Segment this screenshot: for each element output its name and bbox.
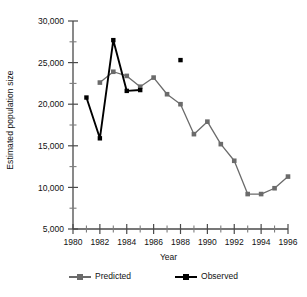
legend-label-observed: Observed bbox=[201, 272, 238, 281]
y-tick-label: 10,000 bbox=[38, 183, 64, 193]
x-tick-label: 1984 bbox=[117, 237, 136, 247]
chart-figure: Estimated population size 5,00010,00015,… bbox=[0, 0, 307, 297]
data-point-predicted bbox=[205, 119, 210, 124]
legend-item-observed: Observed bbox=[175, 272, 238, 281]
x-tick-label: 1990 bbox=[198, 237, 217, 247]
data-point-predicted bbox=[98, 80, 103, 85]
data-point-predicted bbox=[286, 174, 291, 179]
legend-swatch-observed bbox=[175, 272, 197, 281]
y-tick-label: 20,000 bbox=[38, 99, 64, 109]
legend-swatch-predicted bbox=[69, 272, 91, 281]
x-tick-label: 1980 bbox=[64, 237, 83, 247]
x-axis-label: Year bbox=[0, 252, 307, 262]
data-point-predicted bbox=[259, 192, 264, 197]
data-point-observed bbox=[98, 136, 102, 140]
series-line-observed bbox=[86, 40, 140, 138]
data-point-predicted bbox=[192, 132, 197, 137]
y-tick-label: 5,000 bbox=[43, 224, 65, 234]
data-point-observed bbox=[138, 88, 142, 92]
data-point-predicted bbox=[245, 192, 250, 197]
data-point-observed bbox=[84, 95, 88, 99]
x-tick-label: 1996 bbox=[279, 237, 298, 247]
data-point-predicted bbox=[124, 74, 129, 79]
x-tick-label: 1994 bbox=[252, 237, 271, 247]
data-point-predicted bbox=[111, 69, 116, 74]
legend-item-predicted: Predicted bbox=[69, 272, 131, 281]
x-tick-label: 1992 bbox=[225, 237, 244, 247]
y-tick-label: 25,000 bbox=[38, 58, 64, 68]
x-tick-label: 1982 bbox=[90, 237, 109, 247]
plot-area: 5,00010,00015,00020,00025,00030,00019801… bbox=[0, 0, 307, 250]
data-point-predicted bbox=[178, 102, 183, 107]
data-point-predicted bbox=[219, 142, 224, 147]
data-point-predicted bbox=[232, 158, 237, 163]
data-point-predicted bbox=[151, 75, 156, 80]
y-tick-label: 15,000 bbox=[38, 141, 64, 151]
data-point-predicted bbox=[272, 186, 277, 191]
data-point-observed bbox=[125, 89, 129, 93]
legend-label-predicted: Predicted bbox=[95, 272, 131, 281]
x-tick-label: 1986 bbox=[144, 237, 163, 247]
x-axis-label-text: Year bbox=[130, 252, 177, 262]
data-point-observed bbox=[111, 38, 115, 42]
chart-legend: Predicted Observed bbox=[0, 272, 307, 281]
x-tick-label: 1988 bbox=[171, 237, 190, 247]
y-tick-label: 30,000 bbox=[38, 16, 64, 26]
data-point-predicted bbox=[165, 92, 170, 97]
data-point-observed-isolated-point bbox=[178, 58, 182, 62]
